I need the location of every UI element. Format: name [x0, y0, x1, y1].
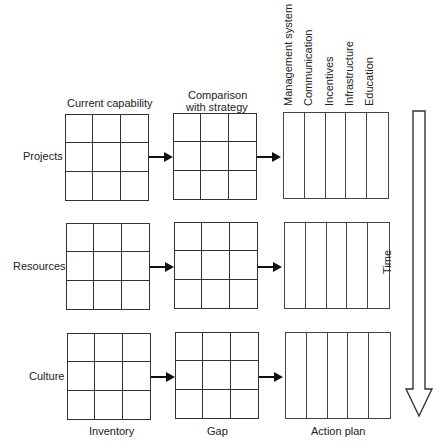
footer-action-plan: Action plan	[311, 425, 365, 437]
current-capability-grid-projects	[65, 114, 149, 201]
arrow-right-icon	[259, 376, 281, 378]
arrow-right-icon	[257, 156, 279, 158]
header-current-capability: Current capability	[67, 97, 153, 109]
comparison-grid-culture	[175, 332, 259, 419]
footer-gap: Gap	[207, 425, 228, 437]
time-arrow-down-icon	[404, 108, 434, 420]
header-education: Education	[363, 57, 375, 106]
arrow-right-icon	[150, 266, 172, 268]
action-plan-grid-projects	[283, 112, 389, 199]
header-comparison-line2: with strategy	[186, 101, 248, 113]
arrow-right-icon	[151, 376, 173, 378]
header-incentives: Incentives	[323, 56, 335, 106]
action-headers: Management system Communication Incentiv…	[280, 0, 400, 110]
header-comparison-line1: Comparison	[188, 89, 247, 101]
current-capability-grid-resources	[66, 223, 150, 310]
header-infrastructure: Infrastructure	[343, 41, 355, 106]
row-label-resources: Resources	[13, 260, 66, 272]
comparison-grid-projects	[173, 113, 257, 200]
action-plan-grid-resources	[284, 222, 390, 309]
comparison-grid-resources	[174, 222, 258, 309]
current-capability-grid-culture	[67, 333, 151, 420]
header-communication: Communication	[302, 30, 314, 106]
footer-inventory: Inventory	[89, 425, 134, 437]
arrow-right-icon	[149, 156, 171, 158]
header-management-system: Management system	[282, 4, 294, 106]
row-label-projects: Projects	[23, 150, 63, 162]
arrow-right-icon	[258, 266, 280, 268]
time-label: Time	[381, 250, 393, 274]
row-label-culture: Culture	[29, 370, 64, 382]
action-plan-grid-culture	[285, 332, 391, 419]
